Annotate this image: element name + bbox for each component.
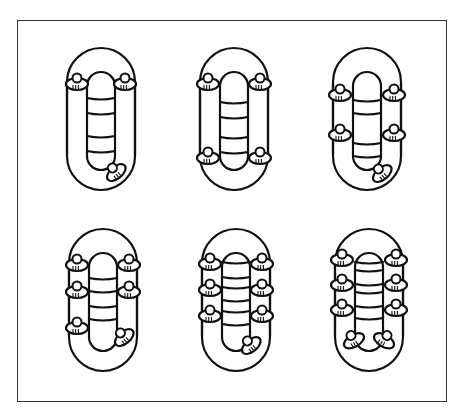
thwart-line	[355, 318, 383, 320]
thwart-line	[355, 270, 383, 272]
person-icon	[385, 250, 407, 267]
thwart-line	[355, 284, 383, 286]
thwart-line	[355, 306, 383, 308]
person-icon	[339, 326, 366, 351]
thwart-line	[355, 292, 383, 294]
thwart-line	[355, 262, 383, 264]
person-icon	[371, 326, 398, 351]
person-icon	[331, 250, 353, 267]
raft-8-persons	[0, 0, 465, 416]
